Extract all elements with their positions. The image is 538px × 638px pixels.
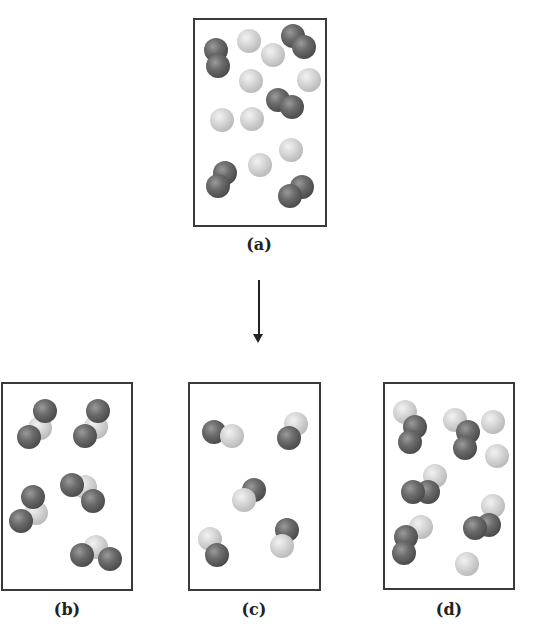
dark-atom-icon bbox=[33, 399, 57, 423]
dark-atom-icon bbox=[453, 436, 477, 460]
light-atom-icon bbox=[270, 534, 294, 558]
dark-atom-icon bbox=[280, 95, 304, 119]
light-atom-icon bbox=[485, 444, 509, 468]
dark-atom-icon bbox=[392, 541, 416, 565]
panel-b-label: (b) bbox=[47, 600, 87, 619]
light-atom-icon bbox=[240, 107, 264, 131]
light-atom-icon bbox=[261, 43, 285, 67]
light-atom-icon bbox=[232, 488, 256, 512]
dark-atom-icon bbox=[9, 509, 33, 533]
light-atom-icon bbox=[210, 108, 234, 132]
dark-atom-icon bbox=[81, 489, 105, 513]
light-atom-icon bbox=[220, 424, 244, 448]
dark-atom-icon bbox=[463, 516, 487, 540]
dark-atom-icon bbox=[206, 174, 230, 198]
panel-a-label: (a) bbox=[239, 235, 279, 254]
dark-atom-icon bbox=[73, 424, 97, 448]
dark-atom-icon bbox=[17, 425, 41, 449]
reaction-arrow-head-icon bbox=[253, 334, 263, 343]
dark-atom-icon bbox=[98, 547, 122, 571]
dark-atom-icon bbox=[292, 35, 316, 59]
panel-d-label: (d) bbox=[429, 600, 469, 619]
dark-atom-icon bbox=[86, 399, 110, 423]
dark-atom-icon bbox=[206, 54, 230, 78]
dark-atom-icon bbox=[205, 543, 229, 567]
light-atom-icon bbox=[279, 138, 303, 162]
dark-atom-icon bbox=[277, 426, 301, 450]
light-atom-icon bbox=[239, 69, 263, 93]
light-atom-icon bbox=[237, 29, 261, 53]
dark-atom-icon bbox=[21, 485, 45, 509]
dark-atom-icon bbox=[401, 480, 425, 504]
panel-c-label: (c) bbox=[234, 600, 274, 619]
light-atom-icon bbox=[297, 68, 321, 92]
light-atom-icon bbox=[455, 552, 479, 576]
dark-atom-icon bbox=[398, 430, 422, 454]
dark-atom-icon bbox=[70, 543, 94, 567]
dark-atom-icon bbox=[60, 473, 84, 497]
reaction-arrow-shaft bbox=[258, 280, 260, 338]
dark-atom-icon bbox=[278, 184, 302, 208]
light-atom-icon bbox=[248, 153, 272, 177]
light-atom-icon bbox=[481, 410, 505, 434]
